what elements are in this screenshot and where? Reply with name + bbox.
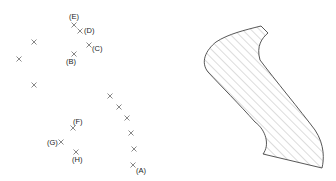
cross-marker-icon bbox=[117, 105, 122, 110]
cross-marker-icon bbox=[78, 29, 83, 34]
cross-marker-icon bbox=[32, 40, 37, 45]
point-label: (B) bbox=[66, 57, 77, 66]
cross-marker-icon bbox=[17, 57, 22, 62]
point-label: (D) bbox=[84, 26, 95, 35]
hatched-region bbox=[204, 26, 323, 168]
point-label: (C) bbox=[92, 44, 103, 53]
cross-marker-icon bbox=[131, 163, 136, 168]
diagram-canvas: (A)(B)(C)(D)(E)(F)(G)(H) bbox=[0, 0, 336, 181]
point-label: (F) bbox=[73, 117, 83, 126]
point-labels: (A)(B)(C)(D)(E)(F)(G)(H) bbox=[47, 12, 147, 175]
cross-marker-icon bbox=[87, 43, 92, 48]
point-label: (E) bbox=[69, 12, 80, 21]
cross-marker-icon bbox=[125, 116, 130, 121]
cross-marker-icon bbox=[32, 83, 37, 88]
cross-marker-icon bbox=[59, 140, 64, 145]
cross-marker-icon bbox=[108, 94, 113, 99]
cross-marker-icon bbox=[72, 23, 77, 28]
point-label: (A) bbox=[136, 166, 147, 175]
point-markers bbox=[17, 23, 137, 168]
cross-marker-icon bbox=[132, 147, 137, 152]
cross-marker-icon bbox=[71, 126, 76, 131]
point-label: (G) bbox=[47, 138, 58, 147]
point-label: (H) bbox=[72, 155, 83, 164]
cross-marker-icon bbox=[72, 52, 77, 57]
cross-marker-icon bbox=[129, 131, 134, 136]
cross-marker-icon bbox=[74, 150, 79, 155]
